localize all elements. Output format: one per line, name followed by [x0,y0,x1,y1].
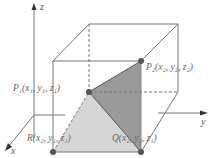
z-axis-arrow-icon [32,3,37,10]
point-p1 [86,89,92,95]
point-q [138,149,144,155]
point-p1-label: P₁(x₁, y₁, z₁) [13,84,60,94]
point-q-label: Q(x₂, y₂, z₁) [112,134,157,144]
box-edge [141,24,178,61]
point-p2-label: P₂(x₂, y₂, z₂) [146,63,193,73]
point-r [50,149,56,155]
point-p2 [138,58,144,64]
point-r-label: R(x₂, y₁, z₁) [27,134,71,144]
box-edge [53,24,89,61]
y-axis-label: y [201,117,205,127]
z-axis-label: z [40,2,44,12]
y-axis-arrow-icon [200,111,208,116]
x-axis-label: x [11,146,15,156]
